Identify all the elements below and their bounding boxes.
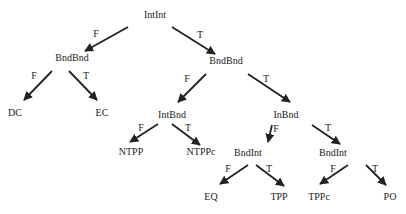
tree-node: EC <box>96 107 109 118</box>
edge-arrow <box>85 27 128 51</box>
tree-node: TPP <box>270 191 288 202</box>
edge-arrow <box>130 124 158 142</box>
edge-label: F <box>273 123 279 134</box>
tree-node: BndBnd <box>209 55 242 66</box>
edge-label: T <box>83 70 89 81</box>
tree-node: InBnd <box>274 109 299 120</box>
tree-node: DC <box>8 107 22 118</box>
edge-layer: FTFTFTFTFTFTFT <box>24 27 386 186</box>
edge-label: F <box>184 73 190 84</box>
edge-label: T <box>263 73 269 84</box>
edge-arrow <box>220 165 248 184</box>
edge-label: F <box>138 122 144 133</box>
edge-label: T <box>325 122 331 133</box>
edge-arrow <box>268 125 272 142</box>
edge-arrow <box>172 27 215 54</box>
tree-node: IntBnd <box>158 109 186 120</box>
edge-label: T <box>372 163 378 174</box>
decision-tree-diagram: FTFTFTFTFTFTFT IntIntBndBndBndBndDCECInt… <box>0 0 406 214</box>
tree-node: NTPP <box>119 146 144 157</box>
edge-label: F <box>31 70 37 81</box>
tree-node: BndInt <box>319 147 347 158</box>
tree-node: IntInt <box>144 9 166 20</box>
edge-label: F <box>330 163 336 174</box>
edge-label: T <box>185 122 191 133</box>
edge-label: T <box>197 29 203 40</box>
tree-node: NTPPc <box>187 146 216 157</box>
tree-node: BndInt <box>234 147 262 158</box>
tree-node: EQ <box>204 191 218 202</box>
tree-node: PO <box>384 191 397 202</box>
edge-label: F <box>93 28 99 39</box>
tree-node: BndBnd <box>55 52 88 63</box>
edge-arrow <box>24 71 52 100</box>
edge-arrow <box>178 74 206 102</box>
edge-label: T <box>266 163 272 174</box>
tree-node: TPPc <box>308 191 330 202</box>
edge-label: F <box>225 163 231 174</box>
